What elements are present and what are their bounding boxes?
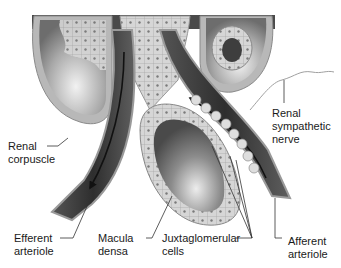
label-macula-densa: Macula densa <box>98 232 133 258</box>
label-juxtaglomerular-cells: Juxtaglomerular cells <box>162 232 240 258</box>
left-renal-corpuscle <box>33 16 112 124</box>
label-efferent-arteriole: Efferent arteriole <box>14 232 54 258</box>
label-afferent-arteriole: Afferent arteriole <box>288 235 328 261</box>
label-renal-sympathetic-nerve: Renal sympathetic nerve <box>272 107 331 146</box>
right-renal-corpuscle <box>200 16 273 92</box>
label-renal-corpuscle: Renal corpuscle <box>8 140 55 166</box>
afferent-leader <box>275 198 282 238</box>
renal-sympathetic-nerve-fiber <box>250 71 334 110</box>
